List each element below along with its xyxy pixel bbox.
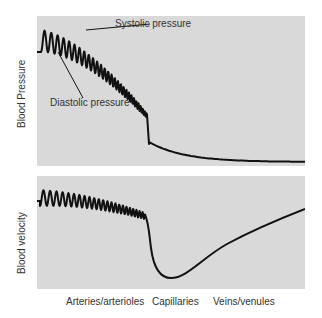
diastolic-pressure-label: Diastolic pressure bbox=[50, 97, 129, 108]
x-label-capillaries: Capillaries bbox=[152, 296, 199, 307]
blood-velocity-panel bbox=[37, 176, 305, 289]
systolic-pressure-label: Systolic pressure bbox=[115, 18, 191, 29]
x-label-arteries: Arteries/arterioles bbox=[66, 296, 144, 307]
y-axis-label-velocity: Blood velocity bbox=[16, 212, 27, 274]
x-label-veins: Veins/venules bbox=[213, 296, 275, 307]
y-axis-label-pressure: Blood Pressure bbox=[16, 60, 27, 128]
blood-pressure-curve bbox=[37, 16, 305, 166]
blood-pressure-panel bbox=[37, 16, 305, 166]
blood-velocity-curve bbox=[37, 176, 305, 289]
